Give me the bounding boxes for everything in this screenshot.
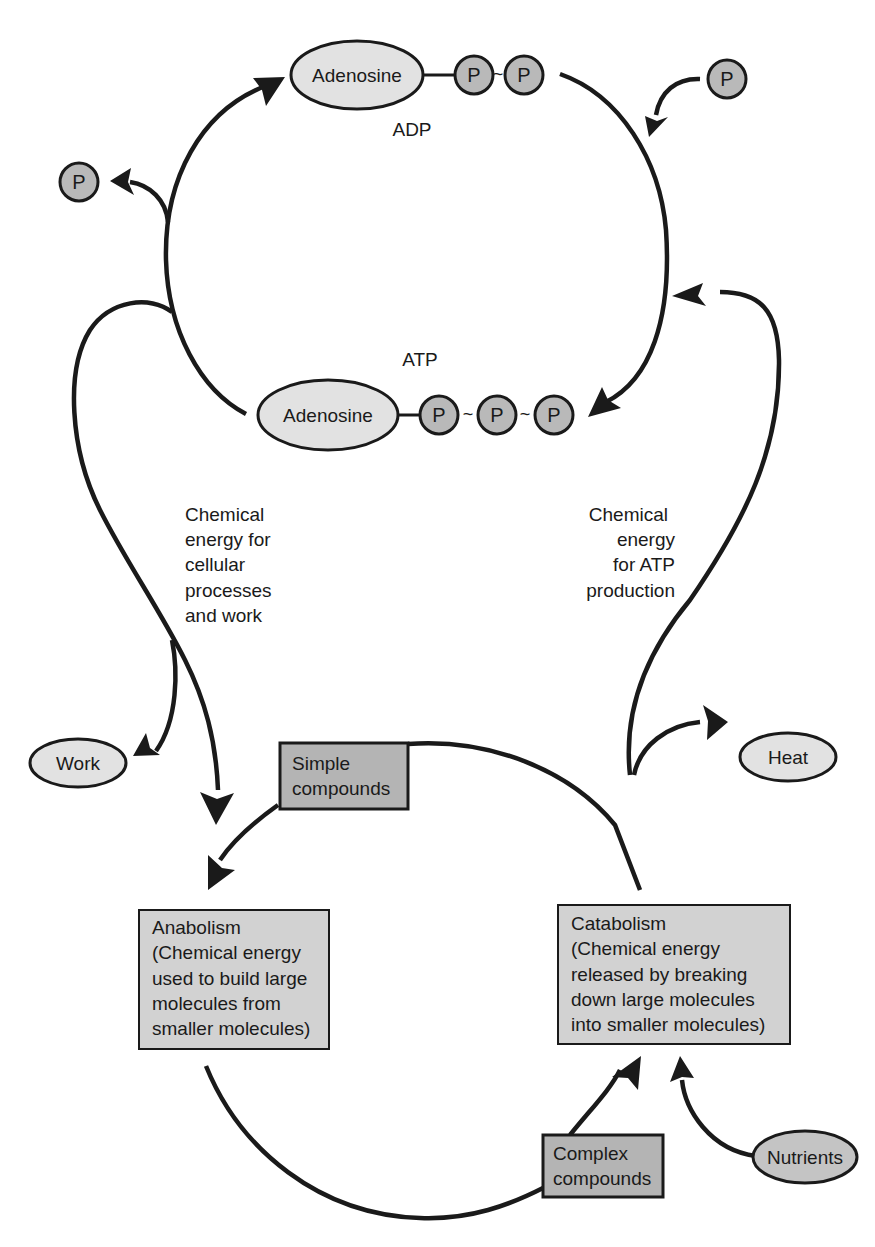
arrowhead-icon (588, 387, 621, 417)
work-node: Work (30, 739, 126, 787)
adp-adenosine-label: Adenosine (312, 65, 402, 86)
arrowhead-icon (703, 705, 728, 740)
svg-text:(Chemical energy: (Chemical energy (571, 938, 720, 959)
svg-text:molecules from: molecules from (152, 993, 281, 1014)
anabolism-to-complex-arc (206, 1066, 545, 1218)
free-phosphate-in: P (708, 60, 746, 98)
svg-text:P: P (517, 64, 530, 86)
simple-to-catabolism-arc (408, 743, 640, 890)
svg-text:P: P (432, 404, 445, 426)
svg-text:Chemical: Chemical (589, 504, 668, 525)
svg-text:Simple: Simple (292, 753, 350, 774)
catabolism-box: Catabolism (Chemical energy released by … (558, 905, 790, 1044)
svg-text:released by breaking: released by breaking (571, 964, 747, 985)
svg-text:P: P (547, 404, 560, 426)
atp-label: ATP (402, 349, 438, 370)
svg-text:for ATP: for ATP (613, 554, 675, 575)
svg-text:smaller molecules): smaller molecules) (152, 1018, 310, 1039)
energy-right-label: Chemical energy for ATP production (586, 504, 675, 601)
arrowhead-icon (670, 1056, 694, 1082)
arrowhead-icon (645, 116, 668, 137)
heat-node: Heat (740, 733, 836, 781)
svg-text:and work: and work (185, 605, 263, 626)
arrowhead-icon (133, 733, 160, 756)
svg-text:Nutrients: Nutrients (767, 1147, 843, 1168)
svg-text:Chemical: Chemical (185, 504, 264, 525)
svg-text:cellular: cellular (185, 554, 246, 575)
svg-text:~: ~ (493, 64, 504, 84)
nutrients-to-catabolism-arrow (670, 1056, 756, 1156)
svg-text:Work: Work (56, 753, 100, 774)
svg-text:compounds: compounds (292, 778, 390, 799)
svg-text:production: production (586, 580, 675, 601)
arrowhead-icon (672, 283, 706, 306)
adp-label: ADP (392, 119, 431, 140)
complex-compounds-box: Complex compounds (543, 1135, 663, 1197)
phosphate-release-arrow (110, 168, 168, 222)
complex-to-catabolism-arrow (570, 1056, 641, 1135)
energy-left-label: Chemical energy for cellular processes a… (185, 504, 272, 626)
atp-cycle-diagram: Adenosine P ~ P ADP P P ATP Adenosine P … (0, 0, 875, 1247)
atp-to-adp-arc (166, 77, 285, 414)
svg-text:energy for: energy for (185, 529, 271, 550)
adp-molecule: Adenosine P ~ P ADP (291, 41, 543, 140)
arrowhead-icon (200, 792, 234, 825)
svg-text:energy: energy (617, 529, 676, 550)
svg-text:~: ~ (463, 404, 474, 424)
svg-text:Catabolism: Catabolism (571, 913, 666, 934)
anabolism-box: Anabolism (Chemical energy used to build… (139, 910, 329, 1049)
svg-text:P: P (490, 404, 503, 426)
svg-text:P: P (72, 171, 85, 193)
svg-text:P: P (467, 64, 480, 86)
nutrients-node: Nutrients (753, 1131, 857, 1183)
svg-text:Anabolism: Anabolism (152, 917, 241, 938)
svg-text:Complex: Complex (553, 1143, 628, 1164)
svg-text:~: ~ (520, 404, 531, 424)
svg-text:down large molecules: down large molecules (571, 989, 755, 1010)
svg-text:(Chemical energy: (Chemical energy (152, 942, 301, 963)
phosphate-input-arrow (645, 79, 700, 137)
svg-text:P: P (720, 68, 733, 90)
svg-text:Heat: Heat (768, 747, 809, 768)
svg-text:used to build large: used to build large (152, 968, 307, 989)
free-phosphate-out: P (60, 163, 98, 201)
svg-text:processes: processes (185, 580, 272, 601)
simple-compounds-box: Simple compounds (280, 743, 408, 809)
atp-molecule: ATP Adenosine P ~ P ~ P (258, 349, 573, 450)
svg-text:compounds: compounds (553, 1168, 651, 1189)
atp-adenosine-label: Adenosine (283, 405, 373, 426)
svg-text:into smaller molecules): into smaller molecules) (571, 1014, 765, 1035)
